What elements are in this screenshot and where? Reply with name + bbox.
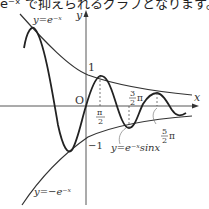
x-tick-three-half-pi: 3 2 π xyxy=(129,89,143,107)
x-tick-five-half-pi: 5 2 π xyxy=(161,127,175,145)
y-tick-one: 1 xyxy=(88,61,95,74)
x-axis-arrow-icon xyxy=(192,104,199,109)
x-tick-pi-half: π 2 xyxy=(96,108,105,126)
y-axis-label: y xyxy=(75,9,83,22)
y-axis-arrow-icon xyxy=(84,10,89,17)
curve-label: y=e⁻ˣsinx xyxy=(110,142,161,153)
svg-text:3: 3 xyxy=(130,89,135,98)
five-half-pi-leader xyxy=(153,108,157,124)
svg-text:π: π xyxy=(137,93,143,103)
upper-envelope-label: y=e⁻ˣ xyxy=(32,14,62,25)
svg-text:2: 2 xyxy=(98,117,103,126)
svg-text:2: 2 xyxy=(162,136,167,145)
svg-text:π: π xyxy=(169,131,175,141)
origin-label: O xyxy=(75,94,84,107)
lower-envelope-label: y=−e⁻ˣ xyxy=(33,186,72,197)
upper-envelope-curve xyxy=(20,14,192,95)
svg-text:π: π xyxy=(97,108,102,117)
damped-sine-graph: y=e⁻ˣ y x 1 O −1 π 2 3 2 π 5 2 π y=e⁻ˣsi… xyxy=(0,0,209,209)
x-axis-label: x xyxy=(194,91,201,104)
svg-text:5: 5 xyxy=(162,127,167,136)
svg-text:2: 2 xyxy=(130,98,135,107)
y-tick-minus-one: −1 xyxy=(88,140,103,151)
